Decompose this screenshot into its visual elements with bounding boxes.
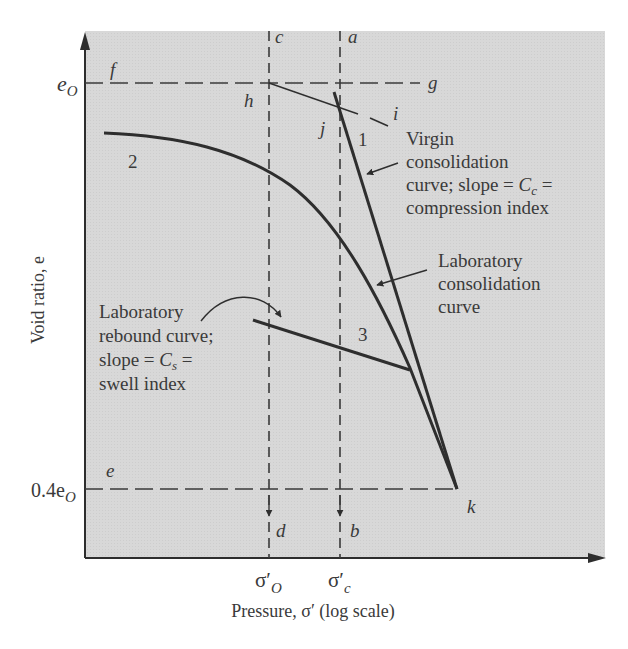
svg-text:curve; slope = Cc =: curve; slope = Cc = bbox=[406, 174, 552, 198]
svg-text:swell index: swell index bbox=[99, 373, 187, 394]
label-g: g bbox=[428, 72, 438, 93]
y-tick-eo: eO bbox=[57, 71, 78, 99]
label-d: d bbox=[276, 520, 286, 541]
svg-text:consolidation: consolidation bbox=[406, 151, 509, 172]
x-tick-sigma-o: σ′O bbox=[255, 568, 282, 596]
label-k: k bbox=[467, 496, 476, 517]
label-i: i bbox=[393, 103, 398, 124]
svg-text:Virgin: Virgin bbox=[406, 128, 455, 149]
svg-text:consolidation: consolidation bbox=[438, 273, 541, 294]
y-tick-0.4eo: 0.4eO bbox=[31, 479, 76, 505]
curve-label-2: 2 bbox=[128, 151, 138, 172]
x-axis-title: Pressure, σ′ (log scale) bbox=[231, 601, 395, 622]
curve-label-1: 1 bbox=[358, 129, 368, 150]
label-a: a bbox=[348, 26, 358, 47]
label-b: b bbox=[350, 520, 360, 541]
x-tick-sigma-c: σ′c bbox=[328, 568, 351, 596]
svg-text:curve: curve bbox=[438, 296, 480, 317]
svg-text:rebound curve;: rebound curve; bbox=[99, 325, 213, 346]
svg-text:Laboratory: Laboratory bbox=[99, 301, 184, 322]
y-axis-title: Void ratio, e bbox=[28, 256, 48, 344]
label-c: c bbox=[275, 26, 284, 47]
curve-label-3: 3 bbox=[358, 324, 368, 345]
label-e: e bbox=[106, 460, 114, 481]
svg-text:Laboratory: Laboratory bbox=[438, 250, 523, 271]
consolidation-diagram: eO 0.4eO σ′O σ′c Pressure, σ′ (log scale… bbox=[0, 0, 628, 649]
svg-text:slope = Cs =: slope = Cs = bbox=[99, 349, 193, 373]
label-h: h bbox=[244, 90, 254, 111]
svg-text:compression index: compression index bbox=[406, 197, 550, 218]
